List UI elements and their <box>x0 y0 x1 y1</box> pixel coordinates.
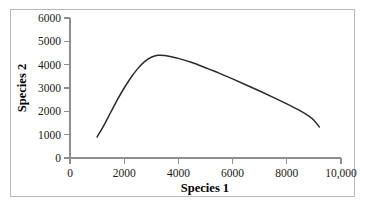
x-tick-label-10000: 10,000 <box>325 167 357 180</box>
y-tick-label-6000: 6000 <box>38 12 61 24</box>
figure-root: 0100020003000400050006000 02000400060008… <box>0 0 367 209</box>
species-isocline-chart: 0100020003000400050006000 02000400060008… <box>0 0 367 209</box>
y-tick-label-5000: 5000 <box>38 35 61 47</box>
species-isocline-curve <box>97 55 319 137</box>
y-tick-label-4000: 4000 <box>38 59 61 71</box>
y-tick-label-1000: 1000 <box>38 129 61 141</box>
x-axis-ticks <box>70 158 341 164</box>
x-tick-label-6000: 6000 <box>221 167 244 179</box>
y-axis-title: Species 2 <box>15 64 29 112</box>
y-axis-tick-labels: 0100020003000400050006000 <box>38 12 61 164</box>
x-tick-label-4000: 4000 <box>167 167 190 179</box>
x-tick-label-2000: 2000 <box>113 167 136 179</box>
y-axis-ticks <box>64 18 70 158</box>
x-tick-label-0: 0 <box>67 167 73 179</box>
axes-group <box>70 18 341 158</box>
x-axis-tick-labels: 0200040006000800010,000 <box>67 167 357 180</box>
x-axis-title: Species 1 <box>181 181 229 195</box>
x-tick-label-8000: 8000 <box>275 167 298 179</box>
y-tick-label-2000: 2000 <box>38 105 61 117</box>
y-tick-label-0: 0 <box>55 152 61 164</box>
y-tick-label-3000: 3000 <box>38 82 61 94</box>
